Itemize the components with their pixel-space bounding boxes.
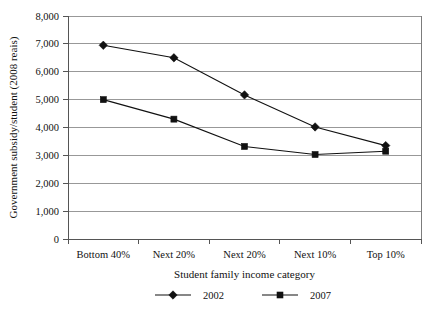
y-axis-tick-label: 8,000 [35, 11, 59, 22]
legend-marker-2002 [169, 291, 177, 299]
legend-label: 2007 [310, 290, 331, 301]
x-axis-title: Student family income category [174, 268, 315, 280]
line-chart: 8,0007,0006,0005,0004,0003,0002,0001,000… [0, 0, 442, 312]
x-axis-category-label: Next 10% [294, 249, 337, 260]
data-point-2007-3 [312, 152, 318, 158]
y-axis-title: Government subsidy/student (2008 reais) [7, 36, 20, 218]
x-axis-category-label: Top 10% [367, 249, 405, 260]
y-axis-tick-label: 2,000 [35, 178, 59, 189]
data-point-2002-3 [311, 123, 319, 131]
data-point-2002-0 [99, 41, 107, 49]
data-point-2002-1 [170, 54, 178, 62]
y-axis-tick-label: 4,000 [35, 122, 59, 133]
data-point-2007-0 [100, 97, 106, 103]
x-axis-category-label: Next 20% [223, 249, 266, 260]
y-axis-tick-label: 3,000 [35, 150, 59, 161]
y-axis-tick-label: 6,000 [35, 66, 59, 77]
data-point-2007-2 [242, 143, 248, 149]
y-axis-tick-label: 7,000 [35, 38, 59, 49]
x-axis-category-label: Next 20% [153, 249, 196, 260]
legend-label: 2002 [203, 290, 224, 301]
data-point-2007-1 [171, 116, 177, 122]
data-point-2007-4 [383, 148, 389, 154]
x-axis-category-label: Bottom 40% [77, 249, 131, 260]
y-axis-tick-label: 0 [54, 234, 59, 245]
legend-item-2007: 2007 [262, 290, 331, 301]
legend-item-2002: 2002 [155, 290, 224, 301]
y-axis-tick-label: 5,000 [35, 94, 59, 105]
chart-figure: 8,0007,0006,0005,0004,0003,0002,0001,000… [0, 0, 442, 312]
data-point-2002-2 [240, 91, 248, 99]
legend-marker-2007 [277, 292, 283, 298]
y-axis-tick-label: 1,000 [35, 206, 59, 217]
